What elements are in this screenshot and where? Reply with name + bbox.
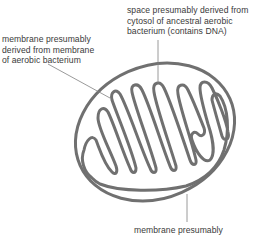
inner-membrane-cristae — [82, 82, 228, 190]
label-matrix-space: space presumably derived from cytosol of… — [127, 5, 264, 37]
label-outer-membrane: membrane presumably — [134, 225, 264, 236]
label-inner-membrane: membrane presumably derived from membran… — [2, 34, 112, 66]
leader-line-inner-membrane — [48, 64, 110, 98]
mitochondrion-diagram: space presumably derived from cytosol of… — [0, 0, 264, 238]
